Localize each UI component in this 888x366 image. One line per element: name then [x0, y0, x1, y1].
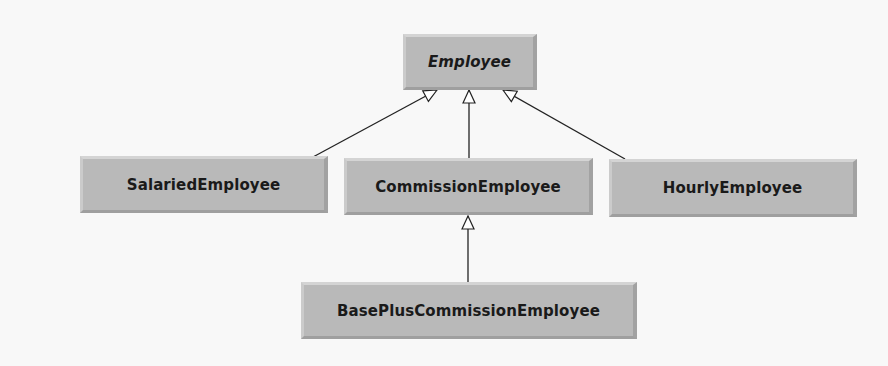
class-name: BasePlusCommissionEmployee [337, 302, 600, 320]
class-base-plus-commission-employee: BasePlusCommissionEmployee [301, 282, 637, 339]
class-name: SalariedEmployee [127, 176, 280, 194]
class-salaried-employee: SalariedEmployee [80, 156, 328, 213]
class-hourly-employee: HourlyEmployee [609, 159, 857, 217]
class-name: CommissionEmployee [375, 178, 561, 196]
uml-diagram: Employee SalariedEmployee CommissionEmpl… [0, 0, 888, 366]
edge-salaried-to-employee [313, 90, 437, 157]
class-name: Employee [428, 53, 511, 71]
class-name: HourlyEmployee [663, 179, 802, 197]
class-employee: Employee [403, 34, 537, 90]
edge-hourly-to-employee [503, 90, 625, 159]
class-commission-employee: CommissionEmployee [344, 158, 593, 215]
